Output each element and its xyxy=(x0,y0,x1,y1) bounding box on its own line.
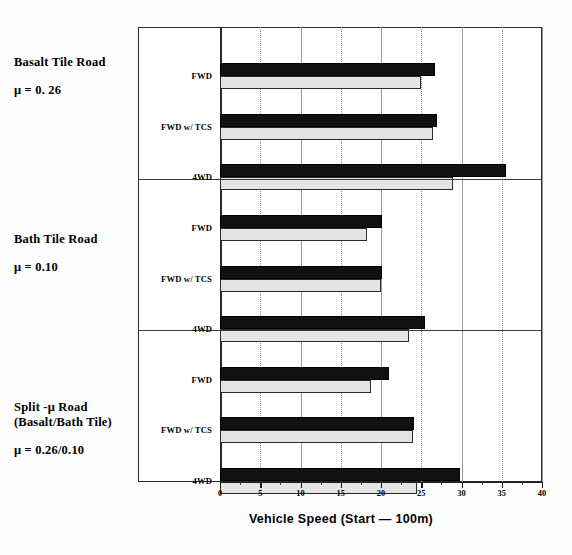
bar-basalt-1-light xyxy=(220,127,433,140)
bar-split-1-light xyxy=(220,430,413,443)
category-label-bath-0: FWD xyxy=(136,223,220,233)
tick-major-25 xyxy=(421,482,422,488)
bar-bath-0-dark xyxy=(220,215,382,228)
gridline-35 xyxy=(502,27,504,482)
tick-label-20: 20 xyxy=(377,489,385,498)
group-caption-basalt: Basalt Tile Road μ = 0. 26 xyxy=(14,55,138,98)
category-label-split-1: FWD w/ TCS xyxy=(136,425,220,435)
tick-label-35: 35 xyxy=(498,489,506,498)
category-label-split-2: 4WD xyxy=(136,476,220,486)
group-caption-mu: μ = 0.26/0.10 xyxy=(14,443,138,458)
group-caption-title: Bath Tile Road xyxy=(14,232,138,247)
tick-major-40 xyxy=(542,482,543,488)
gridline-15 xyxy=(341,27,343,482)
group-caption-title: Basalt Tile Road xyxy=(14,55,138,70)
bar-bath-0-light xyxy=(220,228,367,241)
group-caption-title: Split -μ Road (Basalt/Bath Tile) xyxy=(14,400,138,430)
x-axis-title: Vehicle Speed (Start — 100m) xyxy=(0,512,572,526)
category-label-bath-1: FWD w/ TCS xyxy=(136,274,220,284)
tick-label-15: 15 xyxy=(337,489,345,498)
bar-split-1-dark xyxy=(220,417,414,430)
group-caption-bath: Bath Tile Road μ = 0.10 xyxy=(14,232,138,275)
category-label-basalt-0: FWD xyxy=(136,71,220,81)
gridline-30 xyxy=(462,27,464,482)
category-label-basalt-1: FWD w/ TCS xyxy=(136,122,220,132)
gridline-20 xyxy=(381,27,383,482)
bar-bath-1-light xyxy=(220,279,381,292)
plot-area xyxy=(220,27,542,482)
bar-basalt-2-dark xyxy=(220,164,506,177)
bar-basalt-0-dark xyxy=(220,63,435,76)
tick-major-20 xyxy=(381,482,382,488)
tick-label-30: 30 xyxy=(457,489,465,498)
tick-label-0: 0 xyxy=(218,489,222,498)
bar-basalt-0-light xyxy=(220,76,421,89)
gridline-10 xyxy=(301,27,303,482)
category-label-split-0: FWD xyxy=(136,375,220,385)
tick-major-30 xyxy=(462,482,463,488)
gridline-25 xyxy=(421,27,423,482)
tick-label-10: 10 xyxy=(296,489,304,498)
tick-label-5: 5 xyxy=(258,489,262,498)
tick-minor-22.5 xyxy=(401,482,402,485)
tick-major-5 xyxy=(260,482,261,488)
tick-minor-2.5 xyxy=(240,482,241,485)
group-caption-mu: μ = 0. 26 xyxy=(14,83,138,98)
tick-label-25: 25 xyxy=(417,489,425,498)
tick-major-15 xyxy=(341,482,342,488)
tick-label-40: 40 xyxy=(538,489,546,498)
category-label-bath-2: 4WD xyxy=(136,324,220,334)
chart-root: Basalt Tile Road μ = 0. 26 Bath Tile Roa… xyxy=(0,0,572,555)
bar-basalt-1-dark xyxy=(220,114,437,127)
tick-major-35 xyxy=(502,482,503,488)
group-caption-split: Split -μ Road (Basalt/Bath Tile) μ = 0.2… xyxy=(14,400,138,458)
category-label-basalt-2: 4WD xyxy=(136,172,220,182)
tick-minor-32.5 xyxy=(482,482,483,485)
tick-major-0 xyxy=(220,482,221,488)
bar-split-2-dark xyxy=(220,468,460,481)
bar-split-0-dark xyxy=(220,367,389,380)
gridline-40 xyxy=(542,27,544,482)
bar-bath-1-dark xyxy=(220,266,382,279)
bar-split-0-light xyxy=(220,380,371,393)
tick-minor-27.5 xyxy=(441,482,442,485)
tick-minor-7.5 xyxy=(280,482,281,485)
tick-minor-12.5 xyxy=(321,482,322,485)
bar-bath-2-dark xyxy=(220,316,425,329)
tick-minor-17.5 xyxy=(361,482,362,485)
tick-minor-37.5 xyxy=(522,482,523,485)
group-caption-mu: μ = 0.10 xyxy=(14,260,138,275)
tick-major-10 xyxy=(301,482,302,488)
gridline-5 xyxy=(260,27,262,482)
